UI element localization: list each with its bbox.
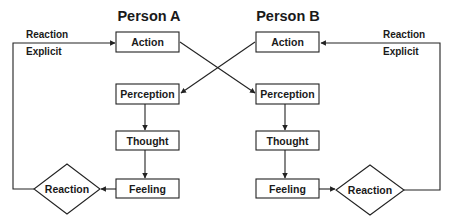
person-a-perception-label: Perception: [120, 88, 174, 100]
person-b-thought-node: Thought: [256, 131, 319, 150]
person-b-thought-label: Thought: [267, 135, 309, 147]
person-a-action-label: Action: [131, 36, 164, 48]
person-b-perception-label: Perception: [260, 88, 314, 100]
person-a-action-node: Action: [116, 32, 179, 52]
person-b-action-node: Action: [256, 32, 319, 52]
person-a-title: Person A: [117, 8, 181, 24]
person-b-action-label: Action: [271, 36, 304, 48]
person-a-feeling-node: Feeling: [116, 179, 179, 198]
person-a-loop-label-explicit: Explicit: [26, 46, 62, 57]
person-b-loop-label-explicit: Explicit: [383, 46, 419, 57]
person-a-reaction-label: Reaction: [45, 183, 89, 195]
person-b-feeling-node: Feeling: [256, 179, 319, 198]
person-a-loop-label-reaction: Reaction: [26, 29, 68, 40]
communication-diagram: Person A Person B Action Perception Thou…: [0, 0, 452, 224]
person-b-perception-node: Perception: [256, 84, 319, 104]
person-a-thought-node: Thought: [116, 131, 179, 150]
person-b-feeling-label: Feeling: [269, 183, 306, 195]
person-b-reaction-diamond: Reaction: [336, 165, 404, 215]
person-b-loop-label-reaction: Reaction: [383, 29, 425, 40]
person-a-reaction-diamond: Reaction: [34, 164, 100, 214]
person-b-reaction-label: Reaction: [348, 184, 392, 196]
person-a-feeling-label: Feeling: [129, 183, 166, 195]
person-b-title: Person B: [256, 8, 320, 24]
arrow-b-reaction-loop-to-action: [321, 43, 440, 190]
person-a-thought-label: Thought: [127, 135, 169, 147]
person-a-perception-node: Perception: [116, 84, 179, 104]
